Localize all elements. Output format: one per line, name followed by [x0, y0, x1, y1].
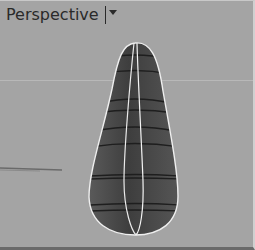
teardrop-model[interactable]	[0, 1, 255, 250]
chevron-down-icon[interactable]	[109, 10, 117, 15]
viewport-title-menu[interactable]: Perspective	[6, 5, 117, 24]
title-separator	[105, 6, 106, 24]
viewport-title: Perspective	[6, 5, 99, 24]
model-surface	[89, 43, 178, 235]
perspective-viewport[interactable]: Perspective	[0, 0, 255, 250]
